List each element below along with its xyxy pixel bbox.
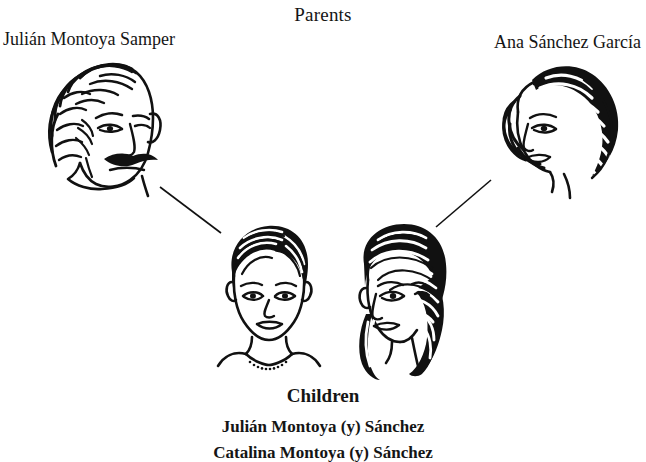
- child-name-label-daughter: Catalina Montoya (y) Sánchez: [0, 444, 646, 461]
- children-heading: Children: [0, 386, 646, 405]
- child-name-label-son: Julián Montoya (y) Sánchez: [0, 418, 646, 435]
- father-name-label: Julián Montoya Samper: [3, 30, 175, 48]
- mother-portrait: [488, 58, 628, 200]
- family-tree-diagram: Parents Julián Montoya Samper Ana Sánche…: [0, 0, 646, 462]
- son-portrait: [216, 220, 320, 372]
- daughter-portrait: [338, 218, 462, 384]
- mother-name-label: Ana Sánchez García: [494, 33, 641, 51]
- parents-heading: Parents: [0, 5, 646, 24]
- father-portrait: [38, 58, 172, 198]
